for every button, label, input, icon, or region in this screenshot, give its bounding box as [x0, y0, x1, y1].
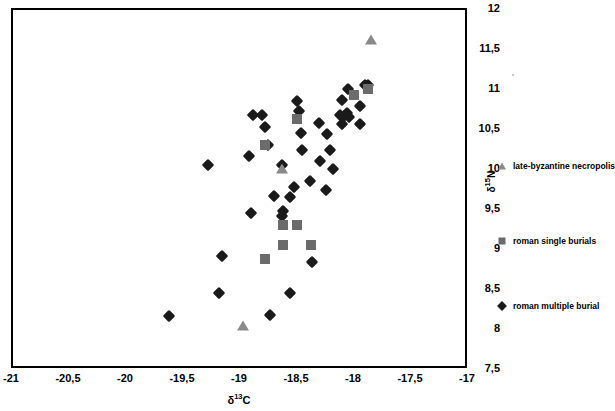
- data-point-triangle: [237, 321, 249, 331]
- data-point-diamond: [321, 128, 334, 141]
- scatter-plot-figure: 1211,51110,5109,598,587,5 -21-20,5-20-19…: [0, 0, 615, 411]
- diamond-marker-icon: [496, 300, 508, 312]
- plot-area: [11, 8, 467, 368]
- y-axis-tick-label: 12: [488, 2, 500, 14]
- data-point-diamond: [213, 287, 226, 300]
- x-axis-tick-label: -18: [345, 372, 361, 384]
- legend-label: roman single burials: [513, 236, 596, 246]
- y-axis-title-element: N: [486, 171, 497, 178]
- x-axis-tick-label: -21: [3, 372, 19, 384]
- x-axis-title-element: C: [243, 394, 251, 406]
- y-axis-tick-label: 8: [494, 322, 500, 334]
- square-marker-icon: [496, 235, 508, 247]
- data-point-diamond: [314, 154, 327, 167]
- data-point-diamond: [242, 149, 255, 162]
- data-point-square: [260, 254, 270, 264]
- data-point-diamond: [323, 144, 336, 157]
- legend-label: late-byzantine necropolis: [513, 161, 615, 171]
- data-point-diamond: [336, 93, 349, 106]
- data-point-diamond: [354, 117, 367, 130]
- y-axis-title-superscript: 15: [483, 178, 492, 186]
- data-point-diamond: [267, 189, 280, 202]
- y-axis-tick-label: 11,5: [479, 42, 500, 54]
- x-axis-title: δ13C: [0, 392, 478, 406]
- data-point-diamond: [216, 249, 229, 262]
- x-axis-tick-label: -19,5: [169, 372, 194, 384]
- x-axis-title-superscript: 13: [234, 392, 242, 401]
- data-point-diamond: [162, 309, 175, 322]
- triangle-marker-icon: [496, 160, 508, 172]
- data-point-square: [292, 114, 302, 124]
- data-point-diamond: [354, 100, 367, 113]
- x-axis-tick-label: -19: [231, 372, 247, 384]
- data-point-square: [349, 90, 359, 100]
- data-point-diamond: [327, 162, 340, 175]
- data-point-diamond: [306, 256, 319, 269]
- data-point-diamond: [256, 109, 269, 122]
- data-point-diamond: [264, 309, 277, 322]
- data-point-square: [278, 240, 288, 250]
- x-axis-tick-label: -17: [459, 372, 475, 384]
- y-axis-title: δ15N: [483, 162, 496, 202]
- y-axis-title-delta: δ: [486, 186, 497, 192]
- data-point-square: [306, 240, 316, 250]
- data-point-diamond: [304, 174, 317, 187]
- y-axis-tick-label: 9,5: [485, 202, 500, 214]
- data-point-diamond: [245, 207, 258, 220]
- y-axis-tick-label: 10,5: [479, 122, 500, 134]
- legend-label: roman multiple burial: [513, 301, 599, 311]
- x-axis-tick-label: -20: [117, 372, 133, 384]
- legend-item-roman-multiple-burial: roman multiple burial: [496, 300, 599, 312]
- x-axis-tick-labels: -21-20,5-20-19,5-19-18,5-18-17,5-17: [0, 372, 615, 390]
- legend-item-late-byzantine-necropolis: late-byzantine necropolis: [496, 160, 615, 172]
- data-point-triangle: [276, 163, 288, 173]
- data-point-square: [292, 220, 302, 230]
- data-point-diamond: [295, 127, 308, 140]
- data-point-square: [278, 220, 288, 230]
- decorative-speck: [512, 74, 514, 76]
- x-axis-tick-label: -17,5: [397, 372, 422, 384]
- y-axis-tick-labels: 1211,51110,5109,598,587,5: [470, 0, 500, 411]
- data-point-diamond: [296, 144, 309, 157]
- x-axis-tick-label: -20,5: [55, 372, 80, 384]
- data-point-triangle: [365, 34, 377, 44]
- data-point-square: [260, 140, 270, 150]
- data-point-diamond: [320, 184, 333, 197]
- x-axis-tick-label: -18,5: [283, 372, 308, 384]
- y-axis-tick-label: 8,5: [485, 282, 500, 294]
- y-axis-tick-label: 11: [488, 82, 500, 94]
- data-point-diamond: [258, 121, 271, 134]
- data-point-diamond: [283, 286, 296, 299]
- data-point-square: [363, 84, 373, 94]
- data-point-diamond: [201, 158, 214, 171]
- legend-item-roman-single-burials: roman single burials: [496, 235, 596, 247]
- data-point-diamond: [313, 117, 326, 130]
